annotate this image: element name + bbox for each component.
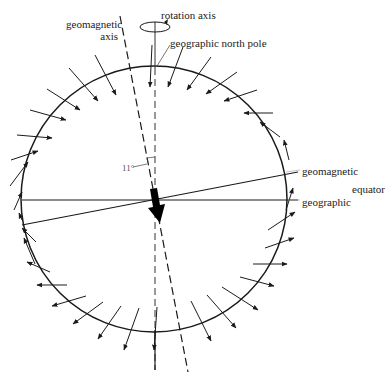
geomagnetic-axis-label-line2: axis [66,30,118,42]
equator-label: equator [352,183,385,195]
geomagnetic-field-diagram [0,0,391,380]
geomagnetic-axis-label: geomagnetic axis [66,18,118,42]
angle-label: 11° [122,162,134,174]
north-pole-pointer [157,45,170,66]
geomagnetic-axis-label-line1: geomagnetic [66,18,118,30]
geographic-equator-label: geographic [302,196,351,208]
field-arrows-north [10,45,289,210]
dipole-arrow-icon [148,188,165,223]
rotation-axis-label: rotation axis [161,9,216,21]
angle-pointer [133,164,147,167]
geographic-north-pole-label: geographic north pole [170,37,267,49]
geomagnetic-equator-label: geomagnetic [302,165,358,177]
